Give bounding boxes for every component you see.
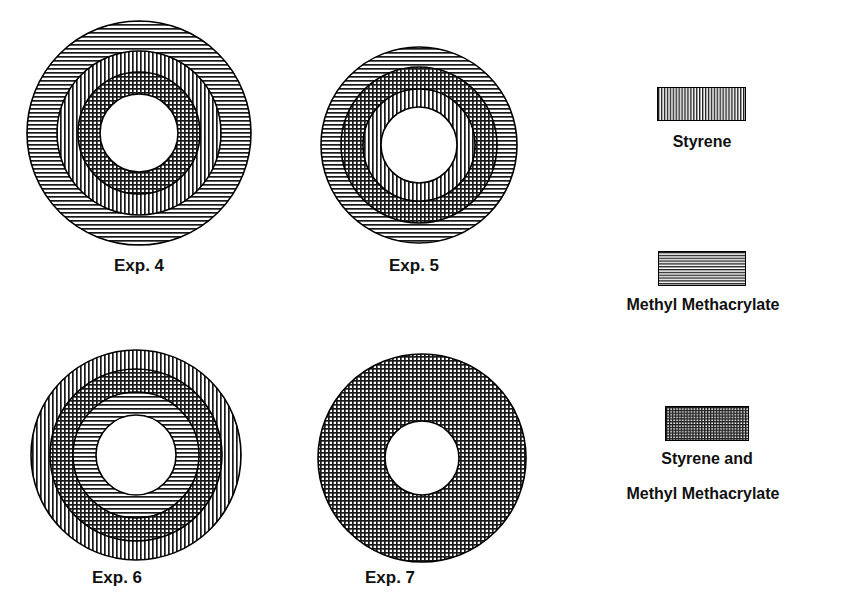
legend-swatch-methyl-methacrylate xyxy=(658,251,746,286)
ring-group-exp-7 xyxy=(318,354,526,562)
caption-exp-6: Exp. 6 xyxy=(57,568,177,588)
caption-exp-7: Exp. 7 xyxy=(330,568,450,588)
rings-layer xyxy=(27,21,526,562)
caption-exp-4: Exp. 4 xyxy=(79,256,199,276)
ring-exp-5-blank xyxy=(381,107,457,183)
ring-exp-7-blank xyxy=(385,421,459,495)
legend-label-styrene: Styrene xyxy=(632,133,772,151)
legend-label-both-line1: Styrene and xyxy=(627,450,787,468)
ring-exp-6-blank xyxy=(96,415,176,495)
legend-label-both-line2: Methyl Methacrylate xyxy=(612,485,794,503)
ring-group-exp-6 xyxy=(31,350,241,560)
ring-group-exp-5 xyxy=(321,47,517,243)
legend-label-methyl-methacrylate: Methyl Methacrylate xyxy=(612,296,794,314)
ring-group-exp-4 xyxy=(27,21,251,245)
caption-exp-5: Exp. 5 xyxy=(354,256,474,276)
figure-root: Exp. 4 Exp. 5 Exp. 6 Exp. 7 Styrene Meth… xyxy=(0,0,846,609)
legend-swatch-styrene xyxy=(657,87,746,121)
ring-exp-4-blank xyxy=(100,94,178,172)
legend-swatch-styrene-and-methyl-methacrylate xyxy=(665,406,749,441)
